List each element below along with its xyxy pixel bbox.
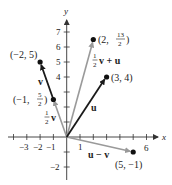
label-v: v <box>38 76 43 87</box>
vector-half-v-plus-u <box>67 43 93 138</box>
label-2-13half-num: 13 <box>117 31 125 39</box>
label-3-4: (3, 4) <box>111 72 133 84</box>
y-tick-label: 7 <box>56 27 61 37</box>
point-5-neg1 <box>131 149 136 154</box>
label-half-v-vec: v <box>51 112 56 123</box>
x-tick-label: 6 <box>144 143 149 153</box>
point-3-4 <box>104 74 109 79</box>
label-neg2-5: (−2, 5) <box>10 49 37 61</box>
x-axis-label: x <box>161 132 166 142</box>
label-2-13half-den: 2 <box>118 40 122 48</box>
label-half-v-plus-u-num: 1 <box>93 52 97 60</box>
label-neg1-5half-prefix: (−1, <box>13 94 29 106</box>
y-tick-label: −2 <box>50 162 60 172</box>
y-axis-label: y <box>63 6 68 16</box>
x-tick-label: 1 <box>78 142 83 152</box>
label-neg1-5half-num: 5 <box>38 91 42 99</box>
label-half-v-den: 2 <box>45 118 49 126</box>
axes: x y −3 −2 −1 <box>8 6 166 180</box>
y-tick-label: 5 <box>56 57 61 67</box>
point-neg2-5 <box>38 59 43 64</box>
y-tick-label: 4 <box>56 72 61 82</box>
y-tick-label: 6 <box>56 42 61 52</box>
label-u-minus-v: u − v <box>88 149 109 160</box>
label-half-v-plus-u-vec: v + u <box>99 55 121 66</box>
point-neg1-5half <box>51 97 56 102</box>
point-2-13half <box>91 37 96 42</box>
label-u: u <box>91 102 97 113</box>
label-2-13half-suffix: ) <box>126 34 129 46</box>
label-neg1-5half-den: 2 <box>38 100 42 108</box>
vector-diagram: x y −3 −2 −1 <box>0 0 172 185</box>
label-half-v-plus-u-den: 2 <box>93 61 97 69</box>
vector-u <box>67 80 105 138</box>
x-tick-label: −3 <box>19 142 29 152</box>
label-2-13half-prefix: (2, <box>98 34 109 46</box>
label-5-neg1: (5, −1) <box>115 159 142 171</box>
label-half-v-num: 1 <box>45 109 49 117</box>
x-tick-label: −1 <box>46 142 56 152</box>
label-neg1-5half-suffix: ) <box>44 94 47 106</box>
x-tick-label: −2 <box>33 142 43 152</box>
